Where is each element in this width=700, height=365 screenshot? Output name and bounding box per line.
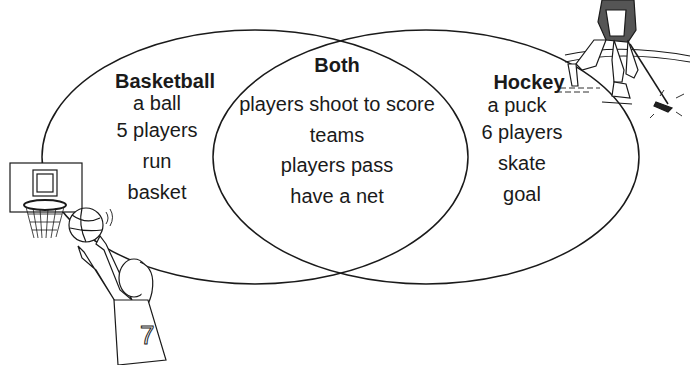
both-item: teams (225, 119, 449, 151)
basketball-ball-icon (69, 208, 113, 242)
hockey-section: Hockey a puck 6 players skate goal (462, 70, 582, 211)
basketball-item: a ball (82, 92, 232, 114)
basketball-item: basket (82, 176, 232, 209)
hockey-item: a puck (452, 94, 582, 116)
both-title: Both (225, 50, 449, 80)
hockey-item: 6 players (462, 116, 582, 149)
hockey-item: skate (462, 149, 582, 178)
hockey-title: Hockey (476, 70, 582, 94)
basketball-title: Basketball (98, 70, 232, 92)
both-item: players pass (225, 151, 449, 180)
hockey-item: goal (462, 178, 582, 211)
basketball-item: run (82, 147, 232, 176)
basketball-section: Basketball a ball 5 players run basket (82, 70, 232, 209)
basketball-item: 5 players (82, 114, 232, 147)
jersey-number: 7 (140, 320, 154, 350)
both-item: have a net (225, 180, 449, 213)
both-section: Both players shoot to score teams player… (225, 50, 449, 213)
basketball-player-icon: 7 (78, 236, 166, 365)
both-item: players shoot to score (225, 89, 449, 119)
